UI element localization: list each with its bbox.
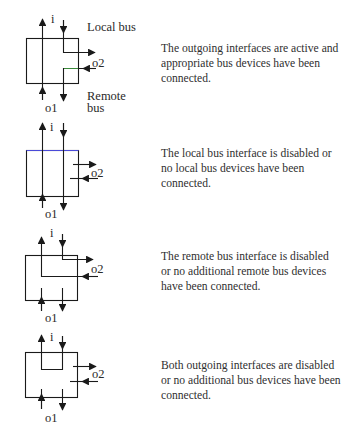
panel-3-label-o1: o1 (45, 311, 58, 325)
panel-1-label-o1: o1 (45, 101, 58, 115)
panel-4-description: Both outgoing interfaces are disabled or… (161, 358, 341, 403)
panel-2-description: The local bus interface is disabled or n… (161, 146, 341, 191)
panel-4-label-i: i (50, 330, 53, 344)
panel-1-label-local-bus: Local bus (87, 20, 136, 34)
panel-1-diagram (27, 19, 97, 101)
panel-4-label-o1: o1 (45, 411, 58, 425)
panel-2-label-o2: o2 (91, 166, 104, 180)
panel-2-label-i: i (50, 120, 53, 134)
panel-1-description: The outgoing interfaces are active and a… (161, 41, 341, 86)
panel-4-label-o2: o2 (92, 367, 105, 381)
panel-1-label-i: i (51, 12, 54, 26)
panel-2-diagram (27, 123, 99, 210)
panel-3-description: The remote bus interface is disabled or … (161, 249, 341, 294)
panel-4-diagram (26, 335, 99, 410)
panel-2-label-o1: o1 (45, 207, 58, 221)
panel-3-label-o2: o2 (91, 262, 104, 276)
panel-1-label-o2: o2 (92, 56, 105, 70)
panel-3-diagram (26, 234, 99, 311)
panel-1-label-bus: bus (87, 101, 104, 115)
panel-3-label-i: i (50, 226, 53, 240)
